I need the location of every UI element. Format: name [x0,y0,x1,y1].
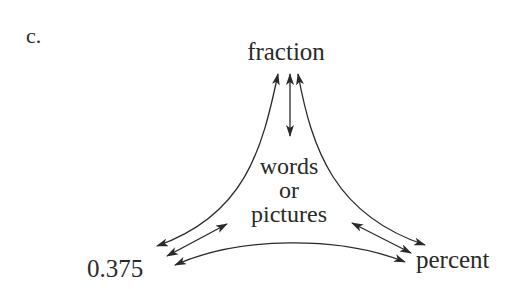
arrow-decimal-percent [175,243,405,265]
node-percent: percent [416,246,490,273]
node-words-line3: pictures [251,201,327,227]
node-decimal: 0.375 [87,255,143,282]
node-words-line1: words [260,153,319,179]
node-fraction: fraction [247,38,325,65]
node-words-line2: or [279,177,299,203]
representation-triangle-diagram: c. fraction 0.375 percent words or pictu… [0,0,524,289]
panel-label: c. [26,23,41,48]
